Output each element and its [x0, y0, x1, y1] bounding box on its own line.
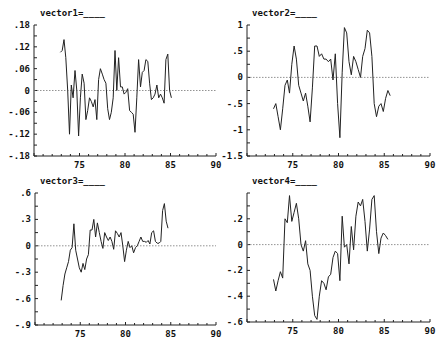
x-tick-label: 90: [211, 160, 222, 170]
chart-title: vector2=____: [252, 8, 318, 18]
series-line: [60, 40, 171, 136]
y-tick-label: -.4: [227, 291, 244, 301]
chart-title: vector1=____: [40, 8, 106, 18]
y-tick-label: -.6: [227, 317, 243, 327]
chart-panel-2: vector2=____758085901.50-.5-1-1.5: [221, 8, 435, 170]
y-tick-label: .2: [232, 214, 243, 224]
y-tick-label: 0: [238, 240, 243, 250]
chart-grid: vector1=____75808590.18.12.060-.06-.12-.…: [0, 0, 442, 346]
y-tick-label: .06: [14, 64, 30, 74]
y-tick-label: -1: [232, 125, 243, 135]
y-tick-label: .12: [14, 42, 30, 52]
x-tick-label: 85: [379, 326, 390, 336]
x-tick-label: 75: [287, 160, 298, 170]
x-tick-label: 75: [74, 160, 85, 170]
x-tick-label: 90: [425, 326, 436, 336]
y-tick-label: -.18: [8, 151, 30, 161]
series-line: [274, 196, 388, 320]
x-tick-label: 80: [333, 160, 344, 170]
series-line: [274, 28, 391, 138]
x-tick-label: 80: [333, 326, 344, 336]
y-tick-label: .6: [20, 188, 31, 198]
x-tick-label: 80: [120, 160, 131, 170]
chart-panel-3: vector3=____75808590.6.30-.3-.6-.9: [15, 176, 222, 339]
y-tick-label: -.12: [8, 129, 30, 139]
y-tick-label: -.2: [227, 265, 243, 275]
chart-panel-4: vector4=____75808590.20-.2-.4-.6: [227, 176, 436, 336]
y-tick-label: 0: [26, 241, 31, 251]
y-tick-label: -.6: [15, 294, 31, 304]
x-tick-label: 80: [120, 329, 131, 339]
y-tick-label: -.3: [15, 267, 31, 277]
x-tick-label: 85: [165, 329, 176, 339]
x-tick-label: 85: [379, 160, 390, 170]
y-tick-label: .18: [14, 20, 30, 30]
x-tick-label: 85: [165, 160, 176, 170]
chart-title: vector4=____: [252, 176, 318, 186]
chart-title: vector3=____: [40, 176, 106, 186]
y-tick-label: 1: [238, 20, 243, 30]
y-tick-label: -.06: [8, 107, 30, 117]
x-tick-label: 90: [425, 160, 436, 170]
y-tick-label: .5: [232, 46, 243, 56]
y-tick-label: 0: [25, 86, 30, 96]
series-line: [61, 204, 168, 301]
y-tick-label: -.9: [15, 320, 31, 330]
y-tick-label: 0: [238, 72, 243, 82]
y-tick-label: -1.5: [221, 151, 243, 161]
x-tick-label: 75: [287, 326, 298, 336]
y-tick-label: -.5: [227, 99, 243, 109]
x-tick-label: 75: [75, 329, 86, 339]
x-tick-label: 90: [211, 329, 222, 339]
chart-panel-1: vector1=____75808590.18.12.060-.06-.12-.…: [8, 8, 221, 170]
y-tick-label: .3: [20, 214, 31, 224]
